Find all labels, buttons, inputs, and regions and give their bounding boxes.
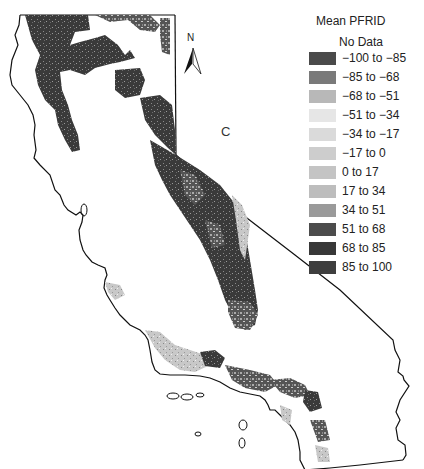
legend-label: −85 to −68 [342,70,399,84]
legend-item: 34 to 51 [309,204,424,218]
legend-swatch [309,147,336,160]
legend-swatch [309,223,336,236]
legend-label: −51 to −34 [342,108,399,122]
legend-swatch [309,185,336,198]
legend-label: 68 to 85 [342,241,385,255]
data-region-north [25,15,176,155]
legend-item: 17 to 34 [309,185,424,199]
legend-label: 51 to 68 [342,222,385,236]
legend-swatch [309,109,336,122]
legend-swatch [309,166,336,179]
legend-item: −51 to −34 [309,109,424,123]
legend-label: −68 to −51 [342,89,399,103]
legend-item: 85 to 100 [309,261,424,275]
legend-label: −17 to 0 [342,146,386,160]
legend-label: 0 to 17 [342,165,379,179]
legend-title: Mean PFRID [316,14,385,28]
legend-label: 34 to 51 [342,203,385,217]
north-label: N [187,32,194,43]
legend-swatch [309,261,336,274]
legend-label: −100 to −85 [342,51,406,65]
legend-swatch [309,90,336,103]
legend-item: −100 to −85 [309,52,424,66]
panel-label: C [221,124,230,139]
legend-swatch [309,71,336,84]
legend-item: −68 to −51 [309,90,424,104]
legend-item: 51 to 68 [309,223,424,237]
legend-label: 17 to 34 [342,184,385,198]
legend-no-data: No Data [339,35,383,49]
legend-item: −85 to −68 [309,71,424,85]
legend-item: 68 to 85 [309,242,424,256]
legend-swatch [309,128,336,141]
legend-label: 85 to 100 [342,260,392,274]
legend-swatch [309,52,336,65]
legend-item: −34 to −17 [309,128,424,142]
legend-swatch [309,242,336,255]
legend-item: −17 to 0 [309,147,424,161]
north-arrow-icon [184,48,201,74]
legend: Mean PFRID No Data −100 to −85 −85 to −6… [300,0,424,290]
legend-swatch [309,204,336,217]
legend-item: 0 to 17 [309,166,424,180]
legend-label: −34 to −17 [342,127,399,141]
